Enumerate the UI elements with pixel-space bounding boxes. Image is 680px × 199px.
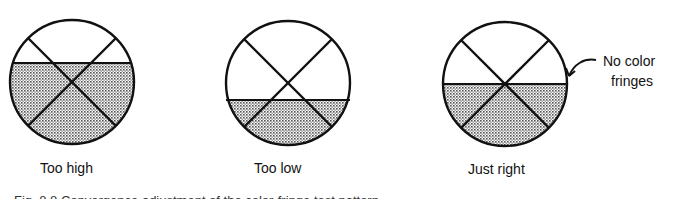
annotation-no-color-fringes: No color fringes [566, 53, 655, 89]
figure-caption: Fig. 8.8 Convergence adjustment of the c… [14, 193, 379, 199]
panel-just-right: Just right [430, 22, 590, 177]
panel-too-high: Too high [0, 20, 160, 176]
panel-too-low: Too low [210, 21, 370, 176]
annotation-line1: No color [603, 53, 655, 69]
convergence-diagram: Too high Too low Just right No color fri… [0, 0, 680, 199]
annotation-line2: fringes [611, 73, 653, 89]
panel-label: Too high [40, 160, 93, 176]
panel-label: Too low [254, 160, 302, 176]
panel-label: Just right [468, 161, 525, 177]
shaded-region [0, 63, 160, 163]
